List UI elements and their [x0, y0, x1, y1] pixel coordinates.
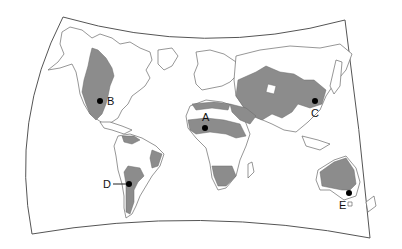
marker-dot-C [312, 98, 318, 104]
marker-label-D: D [103, 178, 111, 190]
marker-label-C: C [311, 107, 319, 119]
marker-dot-A [202, 125, 208, 131]
marker-dot-E [346, 190, 352, 196]
world-map: A B C D E [0, 0, 402, 249]
marker-dot-D [126, 181, 132, 187]
marker-label-B: B [107, 95, 114, 107]
marker-C: C [311, 98, 319, 119]
marker-label-E: E [339, 199, 346, 211]
marker-label-A: A [202, 111, 210, 123]
marker-dot-B [97, 98, 103, 104]
